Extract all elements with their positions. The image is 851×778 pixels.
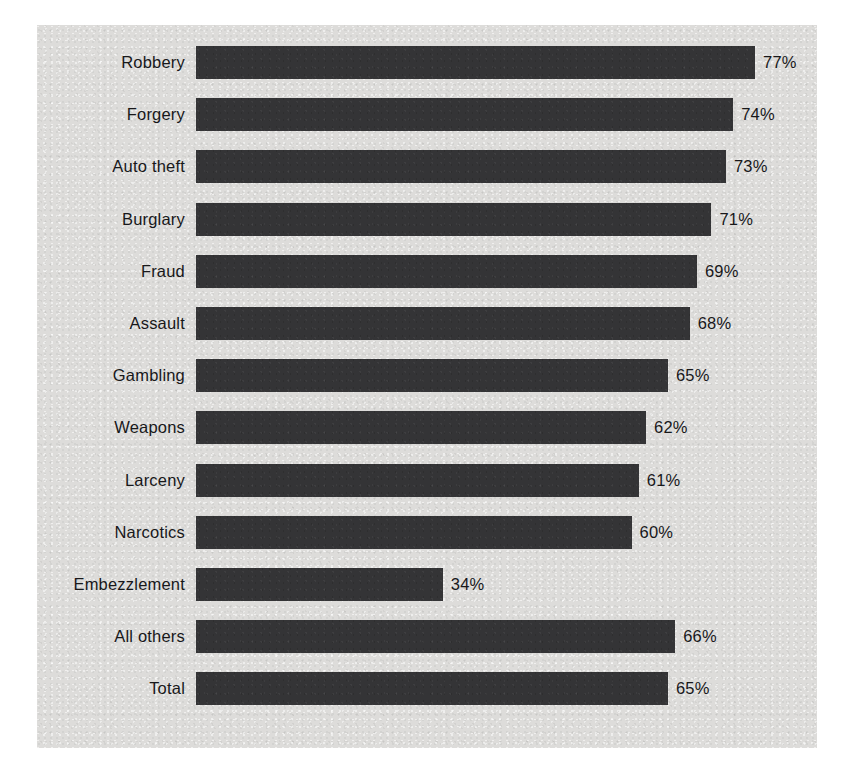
value-label-embezzlement: 34% [451,568,485,601]
bar-row: Gambling65% [37,359,817,392]
value-label-assault: 68% [698,307,732,340]
bar-row: Burglary71% [37,203,817,236]
category-label-all-others: All others [114,620,185,653]
value-label-fraud: 69% [705,255,739,288]
bar-all-others [196,620,675,653]
category-label-larceny: Larceny [125,464,185,497]
value-label-larceny: 61% [647,464,681,497]
bar-row: Forgery74% [37,98,817,131]
plot-area: Robbery77%Forgery74%Auto theft73%Burglar… [37,25,817,748]
category-label-assault: Assault [129,307,185,340]
bar-larceny [196,464,639,497]
category-label-robbery: Robbery [121,46,185,79]
value-label-weapons: 62% [654,411,688,444]
bar-total [196,672,668,705]
category-label-forgery: Forgery [127,98,185,131]
value-label-narcotics: 60% [640,516,674,549]
value-label-burglary: 71% [719,203,753,236]
category-label-weapons: Weapons [114,411,185,444]
category-label-burglary: Burglary [122,203,185,236]
bar-row: Robbery77% [37,46,817,79]
bar-gambling [196,359,668,392]
bar-narcotics [196,516,632,549]
value-label-forgery: 74% [741,98,775,131]
bar-row: Narcotics60% [37,516,817,549]
value-label-all-others: 66% [683,620,717,653]
bar-chart-figure: Robbery77%Forgery74%Auto theft73%Burglar… [0,0,851,778]
bar-assault [196,307,690,340]
bar-row: Weapons62% [37,411,817,444]
bar-row: Total65% [37,672,817,705]
category-label-total: Total [149,672,185,705]
bar-row: Fraud69% [37,255,817,288]
category-label-embezzlement: Embezzlement [73,568,185,601]
bar-forgery [196,98,733,131]
bar-weapons [196,411,646,444]
bar-fraud [196,255,697,288]
bar-row: All others66% [37,620,817,653]
bar-burglary [196,203,711,236]
bar-row: Embezzlement34% [37,568,817,601]
bar-robbery [196,46,755,79]
value-label-total: 65% [676,672,710,705]
category-label-gambling: Gambling [113,359,185,392]
value-label-gambling: 65% [676,359,710,392]
value-label-auto-theft: 73% [734,150,768,183]
bar-embezzlement [196,568,443,601]
bar-row: Larceny61% [37,464,817,497]
chart-panel: Robbery77%Forgery74%Auto theft73%Burglar… [37,25,817,748]
category-label-fraud: Fraud [141,255,185,288]
bar-row: Assault68% [37,307,817,340]
category-label-auto-theft: Auto theft [112,150,185,183]
bar-auto-theft [196,150,726,183]
category-label-narcotics: Narcotics [114,516,185,549]
bar-row: Auto theft73% [37,150,817,183]
value-label-robbery: 77% [763,46,797,79]
